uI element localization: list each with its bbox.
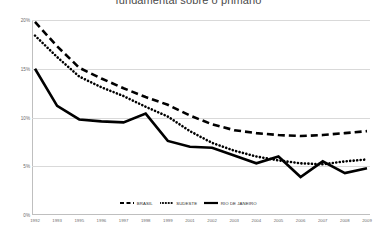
legend-item-rio-de-janeiro[interactable]: RIO DE JANEIRO (204, 200, 257, 206)
legend-item-brasil[interactable]: BRASIL (120, 200, 152, 206)
legend-item-sudeste[interactable]: SUDESTE (160, 200, 198, 206)
chart-title: fundamental sobre o primário (0, 0, 377, 6)
plot-area (32, 20, 370, 215)
chart-legend: BRASILSUDESTERIO DE JANEIRO (0, 200, 377, 206)
x-axis-tick-label: 1995 (74, 218, 84, 223)
x-axis-tick-label: 2007 (318, 218, 328, 223)
chart-container: fundamental sobre o primário 20%15%10%5%… (0, 0, 377, 246)
legend-swatch-solid-icon (204, 200, 218, 206)
series-lines (32, 20, 370, 215)
series-line-rio-de-janeiro (35, 69, 367, 177)
x-axis-tick-label: 2008 (340, 218, 350, 223)
legend-swatch-dashed-icon (120, 200, 134, 206)
x-axis-tick-label: 1998 (141, 218, 151, 223)
x-axis-tick-label: 2003 (229, 218, 239, 223)
legend-label: BRASIL (137, 201, 153, 206)
legend-swatch-dotted-icon (160, 200, 174, 206)
x-axis-tick-label: 2001 (185, 218, 195, 223)
x-axis-tick-label: 2004 (252, 218, 262, 223)
x-axis-tick-label: 2002 (207, 218, 217, 223)
y-axis-tick-label: 5% (4, 164, 30, 169)
x-axis-tick-label: 1993 (52, 218, 62, 223)
x-axis-tick-label: 2009 (362, 218, 372, 223)
y-axis-tick-label: 0% (4, 213, 30, 218)
y-axis-tick-label: 10% (4, 115, 30, 120)
y-axis-tick-label: 20% (4, 18, 30, 23)
series-line-sudeste (35, 36, 367, 165)
x-axis-tick-labels: 1992199319951996199719981999200120022003… (32, 218, 370, 232)
legend-label: SUDESTE (176, 201, 197, 206)
x-axis-tick-label: 2006 (296, 218, 306, 223)
x-axis-tick-label: 2005 (274, 218, 284, 223)
x-axis-tick-label: 1992 (30, 218, 40, 223)
y-axis-tick-label: 15% (4, 66, 30, 71)
y-axis-tick-labels: 20%15%10%5%0% (0, 20, 30, 215)
x-axis-tick-label: 1999 (163, 218, 173, 223)
legend-label: RIO DE JANEIRO (221, 201, 257, 206)
x-axis-tick-label: 1997 (119, 218, 129, 223)
x-axis-tick-label: 1996 (97, 218, 107, 223)
